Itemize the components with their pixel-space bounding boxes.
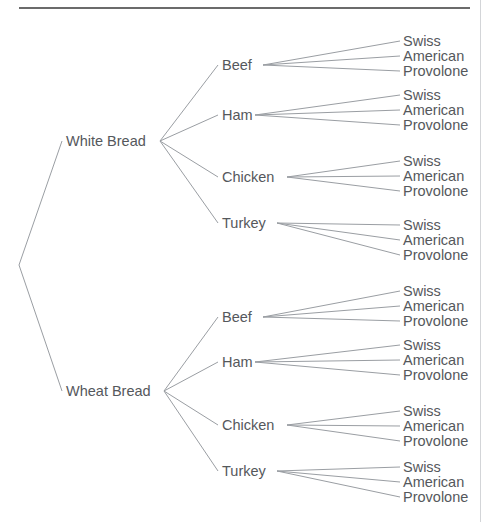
node-label-white-bread-turkey: Turkey xyxy=(222,215,267,231)
edge-root-to-white-bread xyxy=(19,141,62,265)
edge-wheat-bread-turkey-to-provolone xyxy=(277,471,400,497)
edge-white-bread-to-beef xyxy=(160,65,218,141)
edge-white-bread-to-chicken xyxy=(160,141,218,177)
node-label-white-bread-ham-american: American xyxy=(403,102,464,118)
node-label-white-bread-turkey-provolone: Provolone xyxy=(403,247,468,263)
tree-diagram-canvas: White BreadBeefSwissAmericanProvoloneHam… xyxy=(0,0,494,522)
node-label-white-bread: White Bread xyxy=(66,133,146,149)
node-label-wheat-bread-chicken-provolone: Provolone xyxy=(403,433,468,449)
node-label-wheat-bread-turkey-swiss: Swiss xyxy=(403,459,441,475)
edge-wheat-bread-to-turkey xyxy=(164,391,218,471)
edge-white-bread-to-turkey xyxy=(160,141,218,223)
edge-white-bread-turkey-to-provolone xyxy=(277,223,400,255)
node-label-wheat-bread: Wheat Bread xyxy=(66,383,151,399)
node-label-white-bread-beef-provolone: Provolone xyxy=(403,63,468,79)
node-label-wheat-bread-chicken-swiss: Swiss xyxy=(403,403,441,419)
node-label-white-bread-chicken: Chicken xyxy=(222,169,274,185)
node-label-wheat-bread-beef: Beef xyxy=(222,309,253,325)
node-label-wheat-bread-ham-american: American xyxy=(403,352,464,368)
node-label-wheat-bread-ham-swiss: Swiss xyxy=(403,337,441,353)
node-label-white-bread-beef-swiss: Swiss xyxy=(403,33,441,49)
edge-wheat-bread-chicken-to-swiss xyxy=(287,411,400,425)
node-label-white-bread-turkey-swiss: Swiss xyxy=(403,217,441,233)
edge-white-bread-turkey-to-american xyxy=(277,223,400,240)
edge-wheat-bread-beef-to-american xyxy=(263,306,400,317)
edge-white-bread-beef-to-american xyxy=(263,56,400,65)
node-label-wheat-bread-chicken: Chicken xyxy=(222,417,274,433)
edge-wheat-bread-turkey-to-swiss xyxy=(277,467,400,471)
node-label-wheat-bread-beef-provolone: Provolone xyxy=(403,313,468,329)
edge-white-bread-chicken-to-swiss xyxy=(287,161,400,177)
node-label-wheat-bread-beef-american: American xyxy=(403,298,464,314)
edge-white-bread-ham-to-provolone xyxy=(255,115,400,125)
node-label-wheat-bread-turkey: Turkey xyxy=(222,463,267,479)
node-label-white-bread-chicken-provolone: Provolone xyxy=(403,183,468,199)
edge-wheat-bread-ham-to-american xyxy=(255,360,400,362)
edge-wheat-bread-beef-to-provolone xyxy=(263,317,400,321)
edge-wheat-bread-ham-to-swiss xyxy=(255,345,400,362)
edge-white-bread-chicken-to-american xyxy=(287,176,400,177)
edge-wheat-bread-to-beef xyxy=(164,317,218,391)
node-label-white-bread-chicken-swiss: Swiss xyxy=(403,153,441,169)
tree-labels: White BreadBeefSwissAmericanProvoloneHam… xyxy=(66,33,468,505)
edge-wheat-bread-to-chicken xyxy=(164,391,218,425)
edge-white-bread-to-ham xyxy=(160,115,218,141)
edge-wheat-bread-beef-to-swiss xyxy=(263,291,400,317)
node-label-white-bread-turkey-american: American xyxy=(403,232,464,248)
edge-wheat-bread-ham-to-provolone xyxy=(255,362,400,375)
edge-white-bread-beef-to-provolone xyxy=(263,65,400,71)
edge-white-bread-turkey-to-swiss xyxy=(277,223,400,225)
edge-wheat-bread-chicken-to-provolone xyxy=(287,425,400,441)
edge-wheat-bread-to-ham xyxy=(164,362,218,391)
node-label-white-bread-beef-american: American xyxy=(403,48,464,64)
node-label-white-bread-ham-swiss: Swiss xyxy=(403,87,441,103)
tree-edges xyxy=(19,41,400,497)
node-label-white-bread-ham: Ham xyxy=(222,107,253,123)
node-label-white-bread-beef: Beef xyxy=(222,57,253,73)
node-label-wheat-bread-ham-provolone: Provolone xyxy=(403,367,468,383)
edge-root-to-wheat-bread xyxy=(19,265,62,391)
edge-white-bread-beef-to-swiss xyxy=(263,41,400,65)
node-label-wheat-bread-turkey-provolone: Provolone xyxy=(403,489,468,505)
edge-white-bread-chicken-to-provolone xyxy=(287,177,400,191)
node-label-wheat-bread-turkey-american: American xyxy=(403,474,464,490)
tree-diagram-figure: White BreadBeefSwissAmericanProvoloneHam… xyxy=(0,0,494,522)
edge-wheat-bread-turkey-to-american xyxy=(277,471,400,482)
node-label-white-bread-chicken-american: American xyxy=(403,168,464,184)
edge-wheat-bread-chicken-to-american xyxy=(287,425,400,426)
node-label-wheat-bread-chicken-american: American xyxy=(403,418,464,434)
node-label-wheat-bread-ham: Ham xyxy=(222,354,253,370)
node-label-wheat-bread-beef-swiss: Swiss xyxy=(403,283,441,299)
node-label-white-bread-ham-provolone: Provolone xyxy=(403,117,468,133)
